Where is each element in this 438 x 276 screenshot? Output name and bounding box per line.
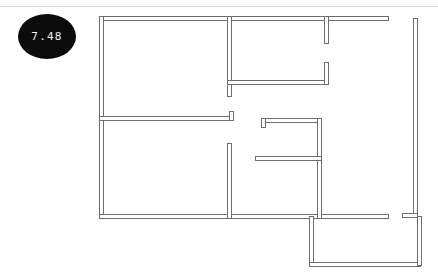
center-room-shelf-wall — [256, 157, 322, 161]
center-room-right-wall — [318, 119, 322, 219]
bay-bottom-wall — [310, 263, 421, 267]
outer-bottom-wall — [100, 215, 389, 219]
floorplan-canvas: 7.48 — [0, 0, 438, 276]
bay-left-wall — [310, 217, 314, 266]
center-room-left-jamb — [262, 119, 266, 128]
horizontal-divider-left — [100, 117, 234, 121]
central-vertical-wall-lower — [228, 144, 232, 219]
upper-right-stub-down — [325, 17, 329, 44]
horizontal-divider-left-jamb — [230, 112, 234, 121]
center-room-top-wall — [262, 119, 322, 123]
plan-label-badge: 7.48 — [18, 14, 76, 59]
isolated-right-foot-wall — [403, 214, 418, 218]
bay-right-wall — [418, 217, 422, 266]
upper-right-stub-up — [325, 63, 329, 85]
upper-right-horizontal-wall — [228, 81, 329, 85]
outer-top-wall — [100, 17, 389, 21]
isolated-right-vertical-wall — [414, 19, 418, 218]
wall-group — [100, 17, 422, 267]
plan-label-text: 7.48 — [31, 31, 62, 42]
